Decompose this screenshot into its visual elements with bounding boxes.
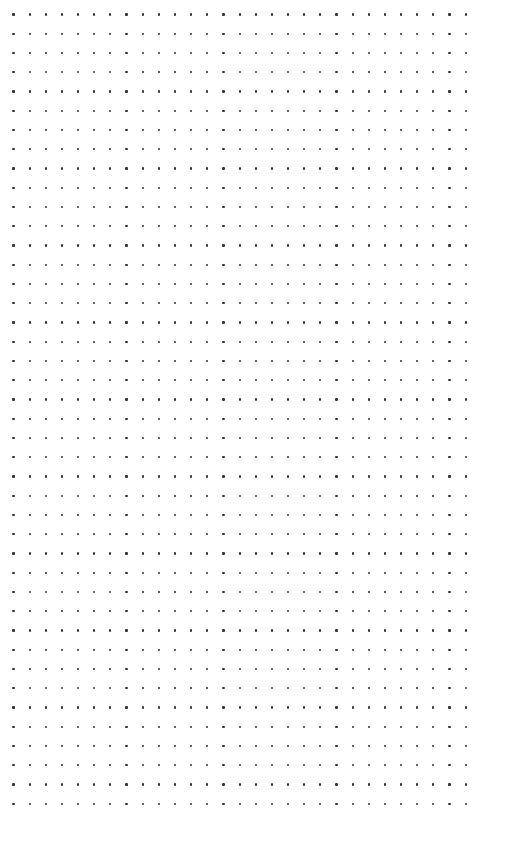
grid-dot — [190, 244, 192, 246]
grid-dot — [206, 764, 208, 766]
grid-dot — [384, 591, 386, 593]
grid-dot — [400, 475, 402, 477]
grid-dot — [12, 552, 14, 554]
grid-dot — [206, 33, 208, 35]
grid-dot — [206, 514, 208, 516]
grid-dot — [190, 610, 192, 612]
grid-dot — [61, 552, 63, 554]
grid-dot — [384, 649, 386, 651]
grid-dot — [206, 129, 208, 131]
grid-dot — [335, 13, 337, 15]
grid-dot — [190, 668, 192, 670]
grid-dot — [61, 764, 63, 766]
grid-dot — [271, 475, 273, 477]
grid-dot — [448, 418, 450, 420]
grid-dot — [319, 552, 321, 554]
grid-dot — [287, 572, 289, 574]
grid-dot — [45, 783, 47, 785]
grid-dot — [158, 398, 160, 400]
grid-dot — [29, 225, 31, 227]
grid-dot — [45, 341, 47, 343]
grid-dot — [29, 591, 31, 593]
grid-dot — [29, 437, 31, 439]
grid-dot — [400, 225, 402, 227]
grid-dot — [125, 649, 127, 651]
grid-dot — [29, 418, 31, 420]
grid-dot — [61, 321, 63, 323]
grid-dot — [142, 610, 144, 612]
grid-dot — [465, 591, 467, 593]
grid-dot — [416, 418, 418, 420]
grid-dot — [222, 360, 224, 362]
grid-dot — [45, 572, 47, 574]
grid-dot — [206, 610, 208, 612]
grid-dot — [125, 610, 127, 612]
grid-dot — [93, 629, 95, 631]
grid-dot — [465, 764, 467, 766]
grid-dot — [239, 110, 241, 112]
grid-dot — [319, 418, 321, 420]
grid-dot — [174, 187, 176, 189]
grid-dot — [400, 52, 402, 54]
grid-dot — [335, 225, 337, 227]
grid-dot — [174, 610, 176, 612]
grid-dot — [416, 167, 418, 169]
grid-dot — [465, 110, 467, 112]
grid-dot — [368, 803, 370, 805]
grid-dot — [222, 148, 224, 150]
grid-dot — [109, 13, 111, 15]
grid-dot — [12, 418, 14, 420]
grid-dot — [190, 764, 192, 766]
grid-dot — [400, 514, 402, 516]
grid-dot — [416, 552, 418, 554]
grid-dot — [12, 225, 14, 227]
grid-dot — [109, 264, 111, 266]
grid-dot — [190, 437, 192, 439]
grid-dot — [61, 610, 63, 612]
grid-dot — [400, 398, 402, 400]
grid-dot — [61, 687, 63, 689]
grid-dot — [287, 745, 289, 747]
grid-dot — [287, 52, 289, 54]
grid-dot — [45, 456, 47, 458]
grid-dot — [448, 90, 450, 92]
grid-dot — [158, 687, 160, 689]
grid-dot — [142, 668, 144, 670]
grid-dot — [61, 649, 63, 651]
grid-dot — [142, 706, 144, 708]
grid-dot — [158, 514, 160, 516]
grid-dot — [93, 167, 95, 169]
grid-dot — [352, 456, 354, 458]
grid-dot — [416, 244, 418, 246]
grid-dot — [400, 649, 402, 651]
grid-dot — [271, 90, 273, 92]
grid-dot — [158, 649, 160, 651]
grid-dot — [222, 456, 224, 458]
grid-dot — [416, 302, 418, 304]
grid-dot — [12, 629, 14, 631]
grid-dot — [465, 629, 467, 631]
grid-dot — [432, 668, 434, 670]
grid-dot — [222, 398, 224, 400]
grid-dot — [142, 13, 144, 15]
grid-dot — [190, 33, 192, 35]
grid-dot — [335, 572, 337, 574]
grid-dot — [158, 283, 160, 285]
grid-dot — [190, 533, 192, 535]
grid-dot — [239, 572, 241, 574]
grid-dot — [352, 591, 354, 593]
grid-dot — [239, 321, 241, 323]
grid-dot — [12, 456, 14, 458]
grid-dot — [29, 206, 31, 208]
grid-dot — [158, 13, 160, 15]
grid-dot — [12, 803, 14, 805]
grid-dot — [432, 33, 434, 35]
grid-dot — [303, 649, 305, 651]
grid-dot — [158, 726, 160, 728]
grid-dot — [368, 552, 370, 554]
grid-dot — [287, 475, 289, 477]
grid-dot — [368, 71, 370, 73]
grid-dot — [255, 33, 257, 35]
grid-dot — [287, 456, 289, 458]
grid-dot — [319, 803, 321, 805]
